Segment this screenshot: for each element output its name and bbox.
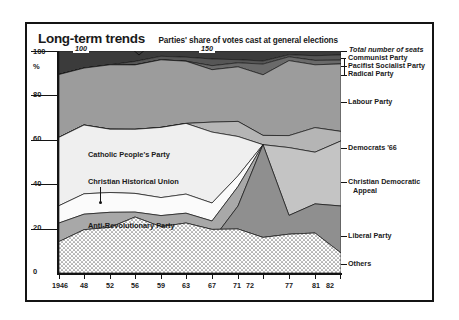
x-tick-mark-72 bbox=[263, 275, 264, 279]
leader-labour-party bbox=[341, 102, 347, 103]
leader-liberal-party bbox=[341, 236, 347, 237]
y-tick-mark-80 bbox=[31, 95, 57, 96]
x-tick-label-81: 81 bbox=[312, 281, 320, 290]
x-tick-label-59: 59 bbox=[157, 281, 165, 290]
leader-total-seats bbox=[341, 51, 347, 52]
x-tick-label-1946: 1946 bbox=[52, 281, 68, 290]
leader-dot-christian-historical-union bbox=[99, 201, 102, 204]
x-axis-line bbox=[57, 273, 342, 275]
x-tick-mark-63 bbox=[186, 275, 187, 279]
chart-frame: Long-term trends Parties' share of votes… bbox=[25, 22, 434, 302]
callout-liberal-party: Liberal Party bbox=[348, 232, 392, 241]
leader-bracket-pacifist bbox=[344, 58, 345, 66]
x-tick-mark-52 bbox=[110, 275, 111, 279]
callout-radical-party: Radical Party bbox=[348, 70, 394, 79]
leader-line-christian-historical-union bbox=[100, 187, 101, 202]
y-tick-label-0: 0 bbox=[33, 267, 55, 276]
inline-label-catholic-peoples-party: Catholic People's Party bbox=[88, 150, 170, 159]
y-tick-mark-40 bbox=[31, 184, 57, 185]
x-tick-mark-59 bbox=[161, 275, 162, 279]
x-tick-mark-82 bbox=[340, 275, 341, 279]
inline-label-christian-historical-union: Christian Historical Union bbox=[88, 177, 179, 186]
x-tick-mark-81 bbox=[315, 275, 316, 279]
leader-bracket-radical bbox=[344, 66, 345, 75]
leader-christian-democratic-appeal bbox=[341, 182, 347, 183]
x-tick-mark-71 bbox=[238, 275, 239, 279]
seats-annotation-150: 150 bbox=[199, 44, 215, 53]
callout-christian-democratic-appeal-line2: Appeal bbox=[353, 187, 377, 196]
callout-labour-party: Labour Party bbox=[348, 98, 392, 107]
chart-subtitle: Parties' share of votes cast at general … bbox=[158, 36, 338, 45]
x-tick-mark-67 bbox=[212, 275, 213, 279]
leader-democrats-66 bbox=[341, 148, 347, 149]
leader-others bbox=[341, 264, 347, 265]
leader-radical-party bbox=[341, 75, 347, 76]
x-tick-label-77: 77 bbox=[285, 281, 293, 290]
x-tick-label-72: 72 bbox=[246, 281, 254, 290]
y-tick-label-20: 20 bbox=[33, 223, 55, 232]
y-axis-unit-label: % bbox=[33, 62, 40, 71]
callout-democrats-66: Democrats '66 bbox=[348, 144, 397, 153]
stacked-area-plot: Catholic People's Party Christian Histor… bbox=[59, 51, 341, 273]
x-tick-mark-56 bbox=[135, 275, 136, 279]
chart-svg bbox=[59, 51, 341, 273]
x-tick-label-67: 67 bbox=[208, 281, 216, 290]
seats-annotation-100: 100 bbox=[73, 44, 89, 53]
x-tick-label-52: 52 bbox=[106, 281, 114, 290]
x-tick-label-63: 63 bbox=[182, 281, 190, 290]
x-tick-label-56: 56 bbox=[131, 281, 139, 290]
y-tick-label-60: 60 bbox=[33, 134, 55, 143]
y-tick-mark-60 bbox=[31, 140, 57, 141]
y-tick-mark-100 bbox=[31, 51, 57, 52]
x-tick-mark-77 bbox=[289, 275, 290, 279]
x-tick-label-71: 71 bbox=[233, 281, 241, 290]
page-title: Long-term trends bbox=[38, 31, 145, 46]
x-tick-label-48: 48 bbox=[80, 281, 88, 290]
inline-label-anti-revolutionary-party: Anti-Revolutionary Party bbox=[88, 221, 175, 230]
callout-others: Others bbox=[348, 260, 371, 269]
x-tick-mark-1946 bbox=[59, 275, 60, 279]
x-tick-label-82: 82 bbox=[326, 281, 334, 290]
y-tick-mark-20 bbox=[31, 229, 57, 230]
x-tick-mark-48 bbox=[84, 275, 85, 279]
